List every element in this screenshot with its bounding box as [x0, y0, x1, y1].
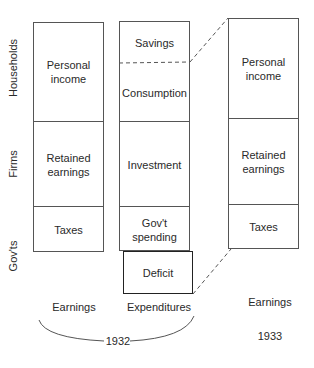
- earnings-expenditures-diagram: Households Firms Gov'ts Personal income …: [0, 0, 314, 368]
- expenditures-1932-label: Expenditures: [120, 301, 198, 313]
- earnings-1932-label: Earnings: [44, 301, 104, 313]
- earnings-1933-label: Earnings: [240, 296, 300, 308]
- year-1933-label: 1933: [250, 330, 290, 342]
- year-1932-label: 1932: [104, 335, 132, 347]
